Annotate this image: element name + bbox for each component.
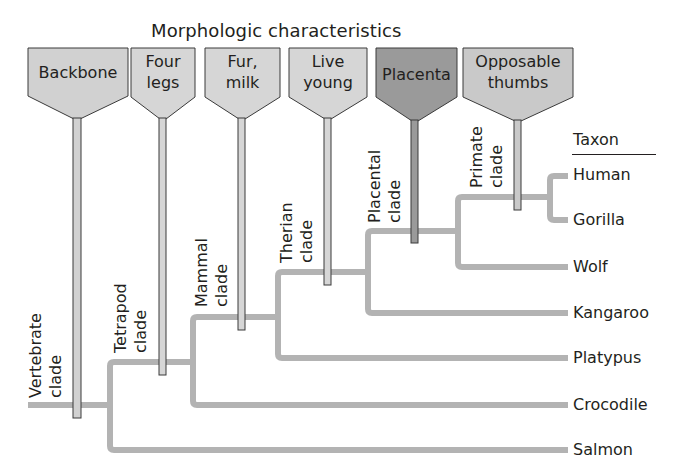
shield-label-line: Placenta [376,64,457,85]
stem-live-young [324,118,331,285]
taxon-header: Taxon [573,130,619,149]
taxon-human: Human [573,166,631,184]
shield-label-line: Backbone [28,62,128,83]
clade-label-line: Vertebrate [26,313,46,398]
clade-label-tetrapod: Tetrapod clade [111,283,151,353]
clade-label-line: Placental [365,150,385,223]
clade-label-line: clade [46,313,66,398]
branch-tetrapod [110,362,193,405]
shield-label-placenta: Placenta [376,64,457,85]
clade-label-line: Primate [467,126,487,188]
branch-primate [458,197,550,231]
clade-label-line: Mammal [192,238,212,307]
shield-label-line: young [289,72,367,93]
branch-wolf [458,231,568,267]
clade-label-mammal: Mammal clade [192,238,232,307]
taxon-kangaroo: Kangaroo [573,304,649,322]
branch-crocodile [193,362,568,405]
taxon-crocodile: Crocodile [573,396,648,414]
stem-fur-milk [238,118,245,330]
branch-therian [278,272,368,317]
clade-label-therian: Therian clade [277,202,317,263]
clade-label-line: Tetrapod [111,283,131,353]
clade-label-line: clade [131,283,151,353]
clade-label-line: Therian [277,202,297,263]
branch-salmon [110,405,568,450]
branch-human [550,176,568,197]
branch-platypus [278,317,568,358]
clade-label-line: clade [212,238,232,307]
stem-four-legs [159,118,166,375]
shield-label-line: Opposable [463,51,573,72]
stem-backbone [73,118,81,418]
shield-label-line: thumbs [463,72,573,93]
stem-placenta [411,120,418,243]
clade-label-vertebrate: Vertebrate clade [26,313,66,398]
shield-label-line: legs [131,72,195,93]
clade-label-line: clade [385,150,405,223]
branch-gorilla [550,197,568,220]
taxon-wolf: Wolf [573,258,608,276]
shield-label-live-young: Live young [289,51,367,93]
taxon-salmon: Salmon [573,441,633,459]
clade-label-line: clade [487,126,507,188]
shield-label-line: Four [131,51,195,72]
stem-opposable-thumbs [514,120,521,210]
branch-mammal [193,317,278,362]
branch-kangaroo [368,272,568,313]
taxon-gorilla: Gorilla [573,211,625,229]
diagram-title: Morphologic characteristics [151,20,401,41]
shield-label-fur-milk: Fur, milk [205,51,280,93]
shield-label-line: milk [205,72,280,93]
clade-label-placental: Placental clade [365,150,405,223]
taxon-header-rule [572,154,656,155]
shield-label-opposable-thumbs: Opposable thumbs [463,51,573,93]
shield-backbone [28,48,128,119]
shield-label-backbone: Backbone [28,62,128,83]
clade-label-primate: Primate clade [467,126,507,188]
taxon-platypus: Platypus [573,349,641,367]
shield-label-line: Live [289,51,367,72]
shield-label-four-legs: Four legs [131,51,195,93]
clade-label-line: clade [297,202,317,263]
shield-label-line: Fur, [205,51,280,72]
